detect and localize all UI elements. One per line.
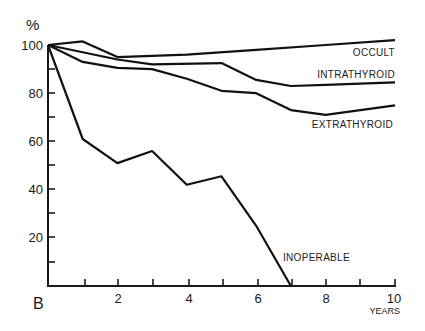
x-tick-label-10: 10 [387, 291, 401, 306]
x-tick-label-2: 2 [114, 291, 121, 306]
y-tick-label-60: 60 [29, 134, 43, 149]
series-label-extrathyroid: EXTRATHYROID [312, 119, 393, 130]
y-tick-label-20: 20 [29, 230, 43, 245]
survival-line-chart: % 100 80 60 40 20 2 4 6 8 10 YEARS B OCC… [0, 0, 425, 331]
x-unit-label: YEARS [369, 306, 400, 316]
x-tick-label-4: 4 [185, 291, 192, 306]
series-label-occult: OCCULT [353, 47, 395, 58]
y-tick-label-40: 40 [29, 182, 43, 197]
x-tick-label-6: 6 [254, 291, 261, 306]
series-label-inoperable: INOPERABLE [283, 252, 350, 263]
panel-label: B [33, 295, 44, 312]
y-ticks [48, 45, 55, 262]
series-label-intrathyroid: INTRATHYROID [317, 69, 395, 80]
series-line-inoperable [48, 45, 291, 286]
y-unit-label: % [26, 16, 39, 33]
x-ticks [85, 279, 395, 286]
y-tick-label-80: 80 [29, 86, 43, 101]
y-tick-label-100: 100 [21, 38, 43, 53]
series-line-occult [48, 40, 395, 57]
x-tick-label-8: 8 [322, 291, 329, 306]
